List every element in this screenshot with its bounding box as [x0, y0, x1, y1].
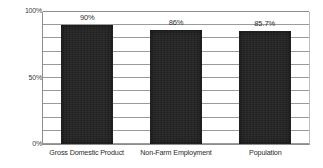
y-axis-tick-50: 50%	[2, 74, 42, 82]
x-axis-labels: Gross Domestic ProductNon-Farm Employmen…	[42, 148, 310, 162]
bar-slot: 85.7%	[220, 12, 309, 144]
bar[interactable]: 85.7%	[239, 31, 291, 144]
y-axis-tick-0: 0%	[2, 140, 42, 148]
y-axis-tick-100: 100%	[2, 7, 42, 15]
x-axis-category-label: Gross Domestic Product	[42, 148, 131, 162]
x-axis-category-label: Population	[221, 148, 310, 162]
bar-value-label: 85.7%	[254, 19, 275, 28]
bar-slot: 90%	[43, 12, 132, 144]
bar-chart: 100% 50% 0% 90%86%85.7% Gross Domestic P…	[0, 0, 323, 168]
bar-slot: 86%	[132, 12, 221, 144]
bar-series: 90%86%85.7%	[43, 12, 309, 144]
bar-value-label: 86%	[169, 18, 184, 27]
bar[interactable]: 90%	[61, 25, 113, 144]
bar-value-label: 90%	[80, 13, 95, 22]
plot-area: 90%86%85.7%	[42, 12, 310, 145]
bar[interactable]: 86%	[150, 30, 202, 144]
x-axis-category-label: Non-Farm Employment	[131, 148, 220, 162]
